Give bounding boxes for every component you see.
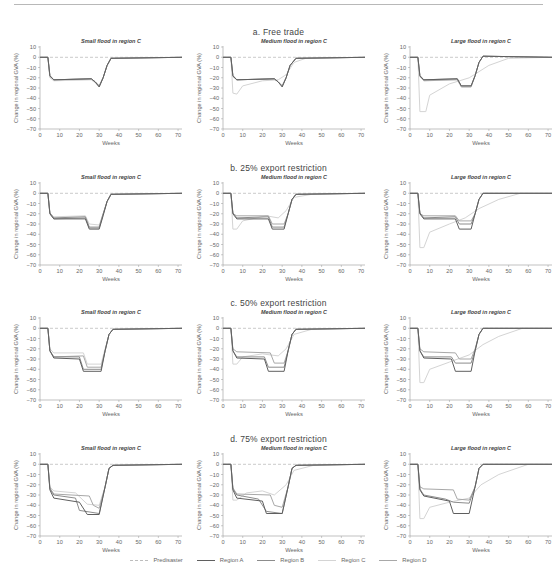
x-tick-label: 0 (408, 539, 411, 545)
chart-panel: Large flood in region C100−10−20−30−40−5… (370, 443, 555, 565)
x-tick-label: 60 (338, 539, 344, 545)
x-tick-label: 30 (96, 132, 102, 138)
y-tick-label: −60 (210, 387, 220, 393)
chart-panel: Large flood in region C100−10−20−30−40−5… (370, 36, 555, 158)
x-tick-label: 40 (299, 132, 305, 138)
x-tick-label: 40 (116, 132, 122, 138)
series-region-b (223, 57, 365, 86)
series-region-b (40, 328, 182, 369)
y-tick-label: −70 (210, 126, 220, 132)
y-tick-label: 0 (403, 325, 406, 331)
x-tick-label: 40 (299, 539, 305, 545)
y-tick-label: −20 (210, 75, 220, 81)
x-tick-label: 10 (240, 132, 246, 138)
panel-title: Small flood in region C (81, 445, 142, 451)
x-tick-label: 60 (155, 132, 161, 138)
y-tick-label: −60 (397, 252, 407, 258)
x-tick-label: 60 (338, 403, 344, 409)
x-tick-label: 20 (76, 268, 82, 274)
y-tick-label: −70 (397, 533, 407, 539)
x-tick-label: 50 (135, 132, 141, 138)
y-tick-label: −30 (397, 492, 407, 498)
y-tick-label: −10 (210, 336, 220, 342)
panel-title: Medium flood in region C (261, 445, 328, 451)
x-tick-label: 50 (318, 132, 324, 138)
legend: Predisaster Region A Region B Region C R… (0, 557, 557, 563)
x-tick-label: 40 (116, 403, 122, 409)
y-tick-label: 10 (213, 315, 219, 321)
series-region-c (410, 328, 552, 382)
y-tick-label: −50 (210, 106, 220, 112)
x-tick-label: 50 (318, 539, 324, 545)
y-tick-label: −40 (397, 366, 407, 372)
x-axis-label: Weeks (102, 140, 120, 146)
y-tick-label: −20 (210, 211, 220, 217)
legend-swatch (130, 560, 148, 561)
x-tick-label: 50 (505, 403, 511, 409)
y-tick-label: −60 (27, 252, 37, 258)
x-tick-label: 0 (408, 132, 411, 138)
x-tick-label: 10 (57, 268, 63, 274)
y-tick-label: −50 (210, 513, 220, 519)
series-region-a (40, 328, 182, 371)
y-tick-label: −20 (397, 211, 407, 217)
legend-swatch (318, 560, 336, 561)
x-tick-label: 20 (259, 132, 265, 138)
y-tick-label: −70 (397, 126, 407, 132)
x-tick-label: 70 (175, 268, 181, 274)
series-region-d (410, 56, 552, 87)
y-tick-label: −60 (210, 116, 220, 122)
y-tick-label: −40 (210, 95, 220, 101)
x-tick-label: 0 (38, 268, 41, 274)
y-tick-label: −60 (397, 116, 407, 122)
line-chart: Large flood in region C100−10−20−30−40−5… (370, 307, 557, 429)
series-region-b (410, 56, 552, 86)
line-chart: Large flood in region C100−10−20−30−40−5… (370, 443, 557, 565)
x-tick-label: 10 (57, 539, 63, 545)
y-tick-label: −50 (27, 242, 37, 248)
y-tick-label: −20 (210, 482, 220, 488)
x-tick-label: 40 (116, 268, 122, 274)
y-tick-label: −60 (27, 116, 37, 122)
x-tick-label: 50 (135, 403, 141, 409)
x-tick-label: 20 (76, 539, 82, 545)
y-tick-label: −20 (27, 211, 37, 217)
y-tick-label: −10 (397, 201, 407, 207)
y-tick-label: −50 (27, 106, 37, 112)
y-tick-label: 0 (403, 54, 406, 60)
x-tick-label: 40 (299, 403, 305, 409)
series-region-c (40, 57, 182, 87)
chart-panel: Medium flood in region C100−10−20−30−40−… (183, 443, 368, 565)
series-region-a (410, 56, 552, 86)
chart-panel: Small flood in region C100−10−20−30−40−5… (0, 36, 185, 158)
x-tick-label: 50 (318, 268, 324, 274)
x-tick-label: 60 (525, 132, 531, 138)
x-tick-label: 0 (221, 268, 224, 274)
legend-label: Region D (402, 557, 426, 563)
y-tick-label: 0 (33, 461, 36, 467)
x-tick-label: 70 (175, 539, 181, 545)
x-axis-label: Weeks (102, 547, 120, 553)
x-tick-label: 10 (427, 268, 433, 274)
series-region-a (40, 193, 182, 229)
y-tick-label: −40 (210, 231, 220, 237)
x-tick-label: 50 (318, 403, 324, 409)
y-tick-label: −70 (210, 262, 220, 268)
x-tick-label: 10 (240, 403, 246, 409)
legend-label: Predisaster (153, 557, 182, 563)
x-tick-label: 30 (279, 539, 285, 545)
series-region-d (223, 57, 365, 86)
x-tick-label: 50 (505, 268, 511, 274)
y-tick-label: 0 (216, 461, 219, 467)
y-axis-label: Change in regional GVA (%) (383, 460, 389, 530)
panel-title: Large flood in region C (451, 38, 512, 44)
y-tick-label: 10 (30, 451, 36, 457)
panel-title: Medium flood in region C (261, 309, 328, 315)
series-region-d (40, 193, 182, 228)
x-tick-label: 70 (175, 132, 181, 138)
legend-swatch (257, 560, 275, 561)
y-axis-label: Change in regional GVA (%) (13, 53, 19, 123)
x-tick-label: 0 (221, 403, 224, 409)
y-axis-label: Change in regional GVA (%) (196, 324, 202, 394)
legend-swatch (379, 560, 397, 561)
